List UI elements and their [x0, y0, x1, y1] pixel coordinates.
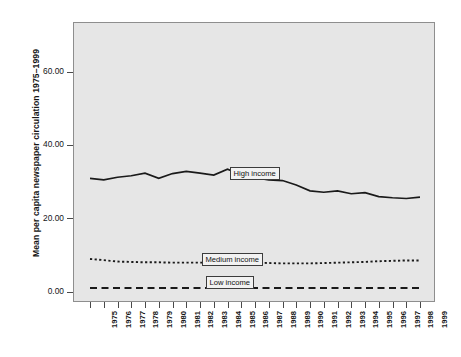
x-tick-label: 1981	[193, 311, 202, 351]
x-tick-mark	[296, 302, 297, 308]
y-tick-label: 40.00	[43, 139, 64, 149]
x-tick-mark	[90, 302, 91, 308]
x-tick-mark	[159, 302, 160, 308]
x-tick-mark	[379, 302, 380, 308]
x-tick-mark	[131, 302, 132, 308]
x-tick-label: 1993	[358, 311, 367, 351]
x-tick-mark	[241, 302, 242, 308]
x-tick-label: 1995	[385, 311, 394, 351]
x-tick-mark	[420, 302, 421, 308]
x-tick-label: 1990	[316, 311, 325, 351]
x-tick-mark	[393, 302, 394, 308]
x-tick-label: 1987	[275, 311, 284, 351]
x-tick-mark	[118, 302, 119, 308]
x-tick-mark	[324, 302, 325, 308]
x-tick-label: 1979	[165, 311, 174, 351]
series-label-medium-income: Medium income	[202, 253, 264, 266]
x-tick-label: 1984	[234, 311, 243, 351]
y-axis-title: Mean per capita newspaper circulation 19…	[31, 33, 41, 273]
x-tick-mark	[200, 302, 201, 308]
x-tick-label: 1986	[261, 311, 270, 351]
x-tick-label: 1996	[399, 311, 408, 351]
x-tick-label: 1994	[371, 311, 380, 351]
y-tick-60.00: 60.00	[0, 72, 73, 73]
x-tick-mark	[228, 302, 229, 308]
x-tick-mark	[365, 302, 366, 308]
x-tick-label: 1989	[303, 311, 312, 351]
x-tick-mark	[255, 302, 256, 308]
y-tick-0.00: 0.00	[0, 292, 73, 293]
x-tick-label: 1997	[413, 311, 422, 351]
series-label-high-income: High income	[230, 167, 280, 180]
x-tick-label: 1982	[206, 311, 215, 351]
x-tick-mark	[269, 302, 270, 308]
x-tick-label: 1983	[220, 311, 229, 351]
x-tick-mark	[310, 302, 311, 308]
y-tick-label: 0.00	[48, 286, 64, 296]
x-tick-label: 1998	[426, 311, 435, 351]
x-tick-label: 1988	[289, 311, 298, 351]
x-tick-mark	[283, 302, 284, 308]
x-tick-mark	[173, 302, 174, 308]
y-tick-40.00: 40.00	[0, 145, 73, 146]
x-tick-label: 1976	[124, 311, 133, 351]
y-tick-20.00: 20.00	[0, 219, 73, 220]
x-tick-mark	[145, 302, 146, 308]
y-tick-label: 60.00	[43, 66, 64, 76]
x-tick-mark	[338, 302, 339, 308]
x-tick-label: 1991	[330, 311, 339, 351]
series-label-low-income: Low income	[206, 276, 255, 289]
y-tick-label: 20.00	[43, 213, 64, 223]
x-tick-label: 1992	[344, 311, 353, 351]
x-tick-label: 1977	[138, 311, 147, 351]
x-tick-label: 1980	[179, 311, 188, 351]
x-tick-mark	[104, 302, 105, 308]
chart-figure: Mean per capita newspaper circulation 19…	[0, 0, 461, 357]
x-tick-label: 1975	[110, 311, 119, 351]
x-tick-mark	[186, 302, 187, 308]
x-tick-label: 1985	[248, 311, 257, 351]
x-tick-label: 1999	[440, 311, 449, 351]
x-tick-mark	[406, 302, 407, 308]
x-tick-mark	[214, 302, 215, 308]
x-tick-label: 1978	[151, 311, 160, 351]
x-tick-mark	[351, 302, 352, 308]
